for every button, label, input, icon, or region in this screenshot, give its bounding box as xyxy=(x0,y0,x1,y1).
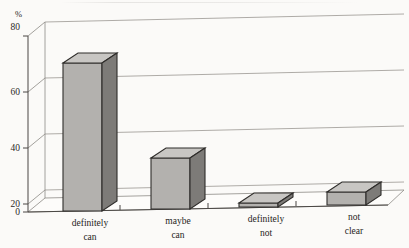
y-tick-label-80: 80 xyxy=(11,22,21,32)
left-wall xyxy=(28,22,45,212)
y-tick-label-60: 60 xyxy=(11,87,21,97)
wall-edge-80 xyxy=(28,22,45,36)
bar-0-front xyxy=(63,63,102,211)
category-3-line2: clear xyxy=(345,226,364,236)
category-label-3: not clear xyxy=(345,212,364,236)
category-label-2: definitely not xyxy=(248,214,285,238)
category-label-1: maybe can xyxy=(165,216,190,240)
chart-canvas: % 80 60 40 20 0 definitely can maybe can xyxy=(0,0,409,248)
bar-maybe-can[interactable] xyxy=(151,148,205,209)
category-1-line2: can xyxy=(171,230,184,240)
y-axis xyxy=(23,36,28,212)
category-0-line1: definitely xyxy=(72,218,109,228)
gridline-80 xyxy=(45,14,404,22)
bar-3-front xyxy=(327,192,366,205)
category-2-line1: definitely xyxy=(248,214,285,224)
category-3-line1: not xyxy=(348,212,361,222)
wall-edge-40 xyxy=(28,134,45,148)
bar-2-front xyxy=(239,203,278,207)
wall-edge-60 xyxy=(28,78,45,92)
bar-chart: % 80 60 40 20 0 definitely can maybe can xyxy=(0,0,409,248)
bar-1-side xyxy=(190,148,205,209)
bar-1-front xyxy=(151,158,190,209)
y-axis-unit-label: % xyxy=(15,9,22,19)
y-tick-label-0: 0 xyxy=(15,207,20,217)
category-1-line1: maybe xyxy=(165,216,190,226)
bar-definitely-can[interactable] xyxy=(63,53,117,211)
category-label-0: definitely can xyxy=(72,218,109,242)
bar-0-side xyxy=(102,53,117,211)
y-tick-label-40: 40 xyxy=(11,143,21,153)
category-0-line2: can xyxy=(83,232,96,242)
category-2-line2: not xyxy=(260,228,273,238)
